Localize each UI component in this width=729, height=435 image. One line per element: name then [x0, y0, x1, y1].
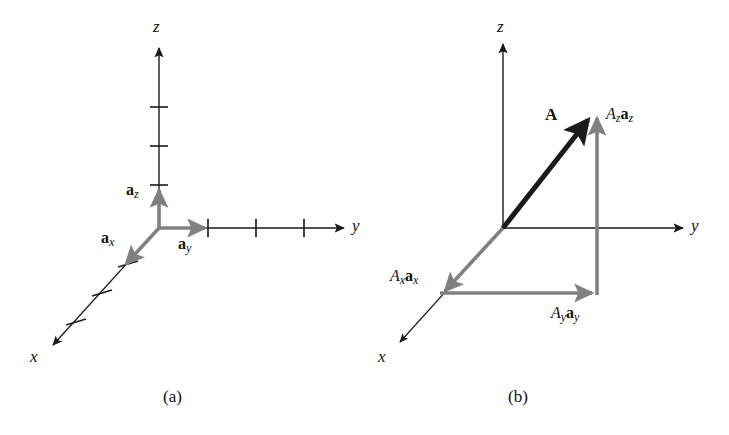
unit-vector-x-symbol: a	[101, 229, 109, 246]
panel-a-y-axis-label: y	[352, 217, 360, 234]
panel-a-unit-vector-z-label: az	[126, 182, 139, 200]
unit-vector-y-subscript: y	[186, 241, 191, 255]
figure-canvas	[0, 0, 729, 435]
panel-a-z-axis-label: z	[153, 18, 160, 35]
panel-b-z-axis-label: z	[497, 18, 504, 35]
unit-vector-x-subscript: x	[109, 235, 114, 249]
panel-b-component-x-label: Axax	[390, 268, 418, 286]
panel-a-graphics	[53, 48, 344, 345]
component-z-scalar: A	[606, 105, 616, 122]
component-y-unit-subscript: y	[574, 310, 579, 324]
component-y-scalar: A	[551, 304, 561, 321]
panel-b-component-z-label: Azaz	[606, 106, 633, 124]
unit-vector-z-subscript: z	[134, 187, 139, 201]
component-x-unit-symbol: a	[405, 267, 413, 284]
component-y-unit-symbol: a	[566, 304, 574, 321]
figure-root: z y x az ay ax (a) z y x A Azaz Ayay Axa…	[0, 0, 729, 435]
panel-a-unit-vector-x-label: ax	[101, 230, 114, 248]
panel-a-unit-vector-x	[126, 228, 159, 264]
component-x-scalar: A	[390, 267, 400, 284]
panel-a-x-axis-label: x	[30, 348, 38, 365]
panel-b-graphics	[400, 44, 683, 342]
component-x-unit-subscript: x	[413, 273, 418, 287]
panel-b-component-x	[445, 228, 503, 291]
component-z-unit-subscript: z	[628, 111, 633, 125]
unit-vector-z-symbol: a	[126, 181, 134, 198]
panel-a-caption: (a)	[163, 388, 182, 405]
panel-b-vector-A	[503, 120, 588, 228]
panel-b-y-axis-label: y	[691, 217, 699, 234]
panel-b-component-y-label: Ayay	[551, 305, 579, 323]
panel-b-x-axis-label: x	[378, 348, 386, 365]
unit-vector-y-symbol: a	[178, 235, 186, 252]
panel-b-caption: (b)	[508, 388, 528, 405]
panel-b-vector-A-label: A	[545, 106, 557, 123]
panel-a-unit-vector-y-label: ay	[178, 236, 191, 254]
